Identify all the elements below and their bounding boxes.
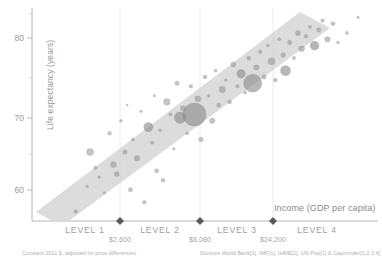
bubble — [214, 69, 217, 72]
level-marker-3 — [269, 217, 277, 225]
bubble — [108, 131, 112, 135]
bubble — [150, 141, 153, 144]
level-boundary-value-2: $8,080 — [175, 236, 225, 243]
bubble — [316, 28, 321, 33]
level-marker-1 — [116, 217, 124, 225]
bubble — [161, 178, 165, 182]
bubble — [209, 118, 215, 124]
level-label-2: LEVEL 2 — [125, 225, 195, 235]
bubble — [195, 96, 201, 102]
bubble — [207, 94, 210, 97]
x-axis — [32, 217, 378, 225]
bubble — [228, 100, 232, 104]
level-label-3: LEVEL 3 — [202, 225, 272, 235]
bubble — [281, 66, 291, 76]
bubble — [262, 75, 267, 80]
bubble — [295, 30, 300, 35]
bubble — [172, 148, 175, 151]
bubble — [126, 104, 128, 106]
bubble — [169, 113, 173, 117]
bubble — [258, 50, 262, 54]
bubble — [266, 44, 269, 47]
bubble — [287, 40, 291, 44]
bubble — [114, 171, 119, 176]
bubble — [321, 19, 325, 23]
bubble — [310, 41, 319, 50]
bubble — [236, 85, 240, 89]
footnote-left: Constant 2011 $, adjusted for price diff… — [22, 250, 137, 256]
bubble — [94, 166, 98, 170]
bubble — [219, 86, 225, 92]
bubble — [86, 185, 89, 188]
bubble — [183, 103, 206, 126]
bubble — [163, 99, 170, 106]
bubble — [158, 129, 161, 132]
bubble — [123, 150, 128, 155]
level-boundary-value-3: $24,200 — [247, 236, 299, 243]
bubble — [98, 176, 101, 179]
bubble — [304, 34, 308, 38]
y-tick-label-60: 60 — [8, 185, 24, 195]
bubble — [299, 46, 305, 52]
bubble — [175, 81, 179, 85]
bubble — [244, 74, 262, 92]
bubble — [189, 84, 193, 88]
bubble — [185, 132, 188, 135]
y-tick-label-80: 80 — [8, 33, 24, 43]
bubble — [357, 16, 360, 19]
bubble — [254, 65, 259, 70]
bubble — [281, 53, 286, 58]
bubble — [231, 62, 236, 67]
x-axis-title: Income (GDP per capita) — [274, 203, 376, 213]
bubble — [74, 210, 78, 214]
level-boundary-value-1: $2,600 — [95, 236, 145, 243]
level-label-4: LEVEL 4 — [282, 225, 352, 235]
bubble — [308, 25, 311, 28]
bubble — [140, 110, 143, 113]
bubble — [243, 91, 246, 94]
bubble — [216, 103, 220, 107]
footnote-right: Sources World Bank[1], IMF[1], IHME[1], … — [200, 250, 372, 256]
bubble — [142, 200, 146, 204]
bubble — [144, 122, 153, 131]
bubble — [278, 38, 281, 41]
level-marker-2 — [196, 217, 204, 225]
bubble — [273, 78, 277, 82]
y-axis — [27, 8, 32, 221]
bubble — [203, 75, 207, 79]
bubble — [336, 41, 339, 44]
bubble — [153, 94, 156, 97]
bubble — [128, 187, 132, 191]
bubble — [247, 56, 251, 60]
bubble — [134, 156, 140, 162]
bubble — [345, 31, 348, 34]
bubble — [331, 22, 335, 26]
level-label-1: LEVEL 1 — [50, 225, 120, 235]
bubble — [110, 162, 116, 168]
bubble — [268, 58, 275, 65]
bubble — [103, 192, 105, 194]
bubble — [325, 37, 331, 43]
bubble — [86, 148, 93, 155]
bubble-chart: 80 70 60 Life expectancy (years) Income … — [0, 0, 382, 262]
bubble — [292, 56, 296, 60]
bubble — [199, 137, 204, 142]
bubble — [224, 79, 227, 82]
y-axis-title: Life expectancy (years) — [45, 40, 55, 130]
bubble — [131, 138, 134, 141]
y-tick-label-70: 70 — [8, 113, 24, 123]
chart-canvas — [0, 0, 382, 262]
bubble — [119, 119, 122, 122]
bubble — [237, 70, 245, 78]
bubble — [155, 169, 159, 173]
